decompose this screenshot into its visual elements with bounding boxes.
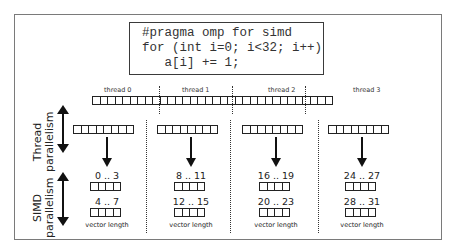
- simd-vector: [90, 182, 121, 191]
- array-cell: [295, 125, 304, 134]
- code-line-pragma: #pragma omp for simd: [142, 26, 323, 41]
- vector-lane: [113, 208, 122, 217]
- array-cell: [325, 96, 334, 105]
- vector-range-label: 28 .. 31: [342, 196, 382, 207]
- vector-lane: [197, 208, 206, 217]
- vector-range-label: 0 .. 3: [87, 170, 127, 181]
- simd-parallelism-double-arrow-icon: [62, 180, 64, 218]
- down-arrow-icon: [357, 158, 367, 167]
- vector-length-label: vector length: [82, 221, 132, 229]
- thread-subarray-3: [328, 125, 389, 134]
- vector-lane: [368, 208, 377, 217]
- vector-length-label: vector length: [337, 221, 387, 229]
- simd-vector: [259, 182, 290, 191]
- thread-parallelism-double-arrow-icon: [62, 113, 64, 145]
- thread-subarray-2: [242, 125, 303, 134]
- array-cell: [381, 125, 390, 134]
- vector-range-label: 20 .. 23: [256, 196, 296, 207]
- thread-divider-top-3: [305, 86, 306, 114]
- global-array: [92, 96, 333, 105]
- array-cell: [210, 125, 219, 134]
- simd-vector: [174, 208, 205, 217]
- thread-divider-2: [230, 120, 231, 233]
- down-arrow-shaft: [275, 137, 277, 159]
- thread-divider-1: [146, 120, 147, 233]
- vector-lane: [197, 182, 206, 191]
- simd-vector: [259, 208, 290, 217]
- code-box: #pragma omp for simd for (int i=0; i<32;…: [129, 22, 324, 75]
- code-line-body: a[i] += 1;: [142, 56, 323, 71]
- vector-length-label: vector length: [166, 221, 216, 229]
- thread-divider-top-2: [232, 86, 233, 114]
- simd-vector: [345, 208, 376, 217]
- down-arrow-shaft: [361, 137, 363, 159]
- thread-label-3: thread 3: [353, 86, 381, 94]
- vector-range-label: 4 .. 7: [87, 196, 127, 207]
- down-arrow-icon: [271, 158, 281, 167]
- simd-vector: [345, 182, 376, 191]
- down-arrow-icon: [102, 158, 112, 167]
- vector-range-label: 12 .. 15: [171, 196, 211, 207]
- thread-parallelism-word-2: parallelism: [44, 112, 56, 172]
- down-arrow-icon: [186, 158, 196, 167]
- vector-length-label: vector length: [251, 221, 301, 229]
- thread-label-0: thread 0: [104, 86, 132, 94]
- vector-lane: [282, 208, 291, 217]
- down-arrow-shaft: [106, 137, 108, 159]
- simd-parallelism-word-2: parallelism: [44, 178, 56, 238]
- thread-label-2: thread 2: [268, 86, 296, 94]
- vector-lane: [368, 182, 377, 191]
- thread-divider-top-1: [159, 86, 160, 114]
- vector-range-label: 16 .. 19: [256, 170, 296, 181]
- simd-vector: [90, 208, 121, 217]
- code-line-for: for (int i=0; i<32; i++): [142, 41, 323, 56]
- thread-label-1: thread 1: [182, 86, 210, 94]
- thread-subarray-0: [73, 125, 134, 134]
- simd-parallelism-label: SIMD parallelism: [32, 178, 56, 238]
- vector-range-label: 24 .. 27: [342, 170, 382, 181]
- down-arrow-shaft: [190, 137, 192, 159]
- array-cell: [126, 125, 135, 134]
- vector-range-label: 8 .. 11: [171, 170, 211, 181]
- vector-lane: [282, 182, 291, 191]
- simd-vector: [174, 182, 205, 191]
- thread-subarray-1: [157, 125, 218, 134]
- vector-lane: [113, 182, 122, 191]
- thread-divider-3: [318, 120, 319, 233]
- thread-parallelism-label: Thread parallelism: [32, 112, 56, 172]
